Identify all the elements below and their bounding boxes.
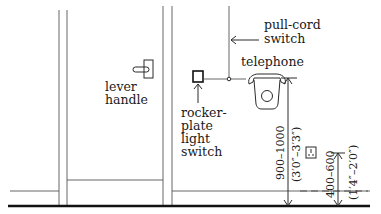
socket-outlet-icon — [306, 147, 316, 158]
elevation-diagram: lever handle pull-cord switch rocker- pl… — [0, 0, 381, 214]
dimension-socket-mm: 400–600 — [324, 151, 337, 199]
rocker-switch-arrow — [194, 84, 202, 103]
pull-cord-arrow — [231, 36, 259, 44]
pull-cord-switch-label: pull-cord switch — [264, 17, 325, 46]
telephone-label: telephone — [241, 54, 304, 69]
dimension-telephone-mm: 900–1000 — [274, 126, 287, 181]
telephone-icon — [249, 74, 286, 109]
pull-cord-icon — [227, 6, 231, 81]
dimension-telephone-imperial: (3′0″–3′3″) — [290, 127, 303, 182]
rocker-switch-label: rocker- plate light switch — [181, 105, 231, 159]
dimension-socket-imperial: (1′4″–2′0″) — [347, 145, 360, 200]
rocker-switch-icon — [193, 71, 246, 82]
lever-handle-label: lever handle — [105, 79, 148, 107]
lever-handle-icon — [133, 60, 153, 78]
